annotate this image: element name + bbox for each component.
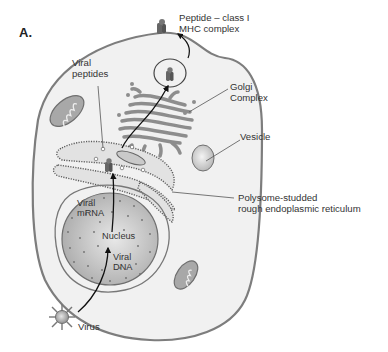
panel-label: A. <box>19 25 32 40</box>
label-virus: Virus <box>78 322 100 333</box>
label-line: rough endoplasmic reticulum <box>238 204 361 215</box>
label-line: Peptide – class I <box>179 13 249 24</box>
label-golgi-complex: Golgi Complex <box>230 82 268 103</box>
virus-icon <box>49 304 75 330</box>
label-viral-dna: Viral DNA <box>113 253 132 272</box>
label-vesicle: Vesicle <box>240 132 270 143</box>
label-line: peptides <box>72 69 108 80</box>
label-line: Golgi <box>230 82 268 93</box>
label-line: Polysome-studded <box>238 193 361 204</box>
label-line: DNA <box>113 263 132 273</box>
label-line: mRNA <box>77 209 104 219</box>
label-nucleus: Nucleus <box>102 232 135 242</box>
label-line: MHC complex <box>179 24 249 35</box>
label-peptide-mhc: Peptide – class I MHC complex <box>179 13 249 34</box>
label-line: Complex <box>230 93 268 104</box>
label-viral-peptides: Viral peptides <box>72 58 108 79</box>
peptide-mhc-surface-icon <box>157 19 166 34</box>
cell-diagram <box>0 0 388 352</box>
label-viral-mrna: Viral mRNA <box>77 199 104 218</box>
label-line: Viral <box>72 58 108 69</box>
label-rough-er: Polysome-studded rough endoplasmic retic… <box>238 193 361 214</box>
